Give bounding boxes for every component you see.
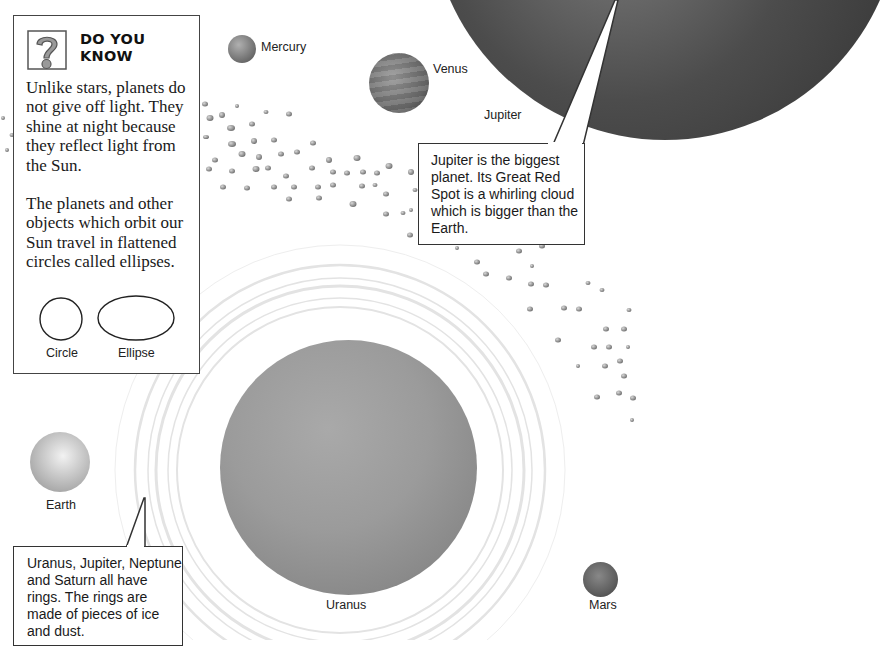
callout-joint (127, 545, 144, 548)
earth-label: Earth (46, 498, 76, 512)
uranus-label: Uranus (326, 598, 366, 612)
ellipse-diagram-icon (96, 294, 176, 342)
earth-planet (30, 432, 90, 492)
did-you-know-body: Unlike stars, planets do not give off li… (26, 78, 198, 291)
jupiter-callout-text: Jupiter is the biggest planet. Its Great… (431, 152, 578, 236)
circle-label: Circle (46, 346, 78, 360)
mercury-planet (228, 35, 256, 63)
uranus-planet (220, 340, 477, 595)
jupiter-callout: Jupiter is the biggest planet. Its Great… (418, 143, 585, 245)
venus-planet (369, 53, 429, 113)
venus-label: Venus (433, 62, 468, 76)
mars-label: Mars (589, 598, 617, 612)
callout-joint (548, 142, 582, 145)
rings-callout-text: Uranus, Jupiter, Neptune and Saturn all … (27, 555, 182, 639)
ellipse-label: Ellipse (118, 346, 155, 360)
question-mark-icon (27, 30, 67, 70)
did-you-know-title: DO YOU KNOW (80, 31, 145, 65)
mars-planet (583, 562, 618, 597)
rings-callout-pointer (120, 496, 160, 548)
mercury-label: Mercury (261, 40, 306, 54)
rings-callout: Uranus, Jupiter, Neptune and Saturn all … (13, 546, 183, 646)
paragraph-light: Unlike stars, planets do not give off li… (26, 78, 198, 175)
jupiter-label: Jupiter (484, 108, 522, 122)
circle-diagram-icon (38, 296, 84, 342)
paragraph-ellipses: The planets and other objects which orbi… (26, 194, 198, 272)
did-you-know-box: DO YOU KNOW Unlike stars, planets do not… (13, 15, 200, 374)
